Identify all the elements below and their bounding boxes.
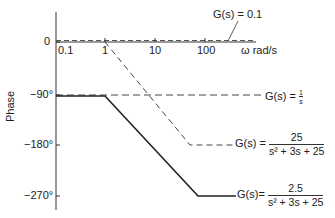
label-g-second-prefix: G(s) = xyxy=(235,137,266,149)
fraction-numerator: 1 xyxy=(299,89,303,97)
fraction-numerator: 2.5 xyxy=(268,183,323,196)
fraction-denominator: s² + 3s + 25 xyxy=(269,145,324,157)
y-tick-label-270: −270° xyxy=(24,190,53,201)
label-g-integrator: G(s) = 1 s xyxy=(265,89,303,105)
y-tick-label-90: −90° xyxy=(30,89,53,100)
series-g-scaled-second-order xyxy=(56,96,236,196)
x-tick-label-0.1: 0.1 xyxy=(58,45,73,56)
x-tick-label-100: 100 xyxy=(197,45,215,56)
label-g-second-order: G(s) = 25 s² + 3s + 25 xyxy=(235,132,324,156)
x-axis-label: ω rad/s xyxy=(241,45,277,56)
series-g-second-order xyxy=(105,42,234,145)
y-axis-label: Phase xyxy=(4,91,16,122)
x-tick-label-10: 10 xyxy=(149,45,161,56)
y-tick-label-0: 0 xyxy=(44,36,50,47)
label-g-scaled-second-order: G(s)= 2.5 s² + 3s + 25 xyxy=(237,183,323,207)
label-g-integrator-fraction: 1 s xyxy=(299,89,303,105)
fraction-denominator: s² + 3s + 25 xyxy=(268,196,323,208)
label-g-third-prefix: G(s)= xyxy=(237,188,265,200)
x-tick-label-1: 1 xyxy=(102,45,108,56)
label-g-0.1: G(s) = 0.1 xyxy=(213,9,262,20)
fraction-denominator: s xyxy=(299,97,303,105)
y-tick-label-180: −180° xyxy=(24,139,53,150)
label-g-second-fraction: 25 s² + 3s + 25 xyxy=(269,132,324,156)
leader-line-g-0.1 xyxy=(228,21,238,41)
label-g-integrator-prefix: G(s) = xyxy=(265,90,296,102)
fraction-numerator: 25 xyxy=(269,132,324,145)
label-g-third-fraction: 2.5 s² + 3s + 25 xyxy=(268,183,323,207)
